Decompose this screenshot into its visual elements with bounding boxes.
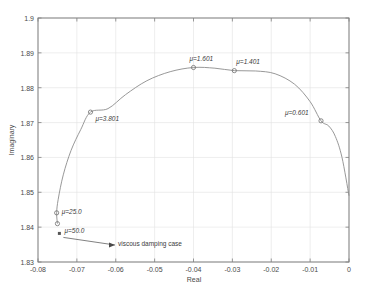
y-tick-label: 1.88 <box>14 84 34 91</box>
y-axis-title: Imaginary <box>8 125 15 156</box>
x-tick-label: -0.03 <box>224 266 240 273</box>
point-label-mu-0p601: μ=0.601 <box>285 109 309 116</box>
x-axis-title: Real <box>187 276 201 283</box>
y-tick-label: 1.87 <box>14 119 34 126</box>
data-markers <box>55 65 324 235</box>
x-tick-label: -0.07 <box>69 266 85 273</box>
x-tick-label: -0.05 <box>147 266 163 273</box>
data-curve <box>57 67 349 223</box>
point-label-mu-50p0: μ=50.0 <box>64 227 84 234</box>
x-tick-label: 0 <box>347 266 351 273</box>
y-tick-label: 1.84 <box>14 224 34 231</box>
y-tick-label: 1.86 <box>14 154 34 161</box>
point-label-mu-25p0: μ=25.0 <box>62 208 82 215</box>
chart-figure: -0.08-0.07-0.06-0.05-0.04-0.03-0.02-0.01… <box>0 0 368 296</box>
y-tick-label: 1.9 <box>14 15 34 22</box>
annotation-arrow <box>63 237 115 247</box>
plot-canvas <box>0 0 368 296</box>
x-tick-label: -0.06 <box>108 266 124 273</box>
x-tick-label: -0.04 <box>186 266 202 273</box>
y-tick-label: 1.85 <box>14 189 34 196</box>
point-label-mu-1p601: μ=1.601 <box>190 55 214 62</box>
x-tick-label: -0.08 <box>30 266 46 273</box>
y-tick-label: 1.89 <box>14 49 34 56</box>
annotation-label: viscous damping case <box>118 240 182 247</box>
x-tick-label: -0.01 <box>302 266 318 273</box>
y-tick-label: 1.83 <box>14 259 34 266</box>
point-label-mu-1p401: μ=1.401 <box>236 58 260 65</box>
point-label-mu-3p801: μ=3.801 <box>95 115 119 122</box>
x-tick-label: -0.02 <box>263 266 279 273</box>
marker-viscous-damping-point <box>58 232 61 235</box>
